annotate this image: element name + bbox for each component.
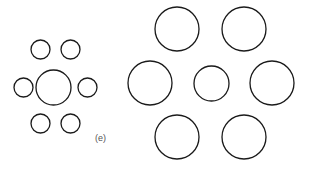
right-inducer-circles-large-2 xyxy=(222,7,266,51)
panel-label-e: (e) xyxy=(95,133,106,143)
circles-illustration xyxy=(0,0,309,170)
right-configuration-group xyxy=(128,7,294,159)
left-inducer-circles-small-5 xyxy=(31,114,50,133)
right-inducer-circles-large-6 xyxy=(222,115,266,159)
right-inducer-circles-large-4 xyxy=(250,61,294,105)
ebbinghaus-figure-panel: (e) xyxy=(0,0,309,170)
left-inducer-circles-small-6 xyxy=(61,114,80,133)
left-inducer-circles-small-1 xyxy=(31,40,50,59)
left-inducer-circles-small-2 xyxy=(61,40,80,59)
left-inducer-circles-small-4 xyxy=(78,78,97,97)
left-inducer-circles-small-3 xyxy=(14,78,33,97)
right-target-circle-1 xyxy=(194,66,229,101)
left-target-circle-1 xyxy=(36,70,71,105)
right-inducer-circles-large-3 xyxy=(128,61,172,105)
right-inducer-circles-large-5 xyxy=(155,115,199,159)
right-inducer-circles-large-1 xyxy=(155,7,199,51)
left-configuration-group xyxy=(14,40,97,133)
